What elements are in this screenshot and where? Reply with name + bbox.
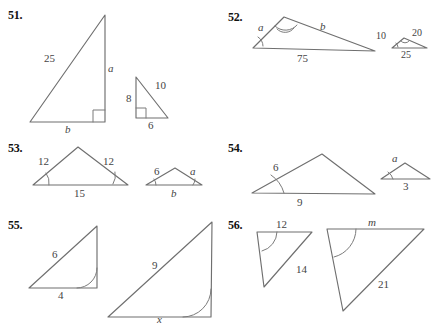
label-54-big-left: 6: [273, 161, 279, 173]
label-54-small-left: a: [392, 152, 398, 164]
label-55-big-base: x: [157, 313, 162, 323]
label-51-big-hypotenuse: 25: [44, 52, 55, 64]
figure-55-large: [108, 222, 212, 317]
problem-number-54: 54.: [228, 141, 242, 156]
figure-52-small: [392, 38, 427, 48]
label-56-big-side: 21: [378, 278, 389, 290]
label-54-small-base: 3: [403, 180, 409, 192]
figure-51-large: [30, 15, 105, 122]
problem-number-53: 53.: [8, 141, 22, 156]
worksheet-page: 51. 25 a b 8 10 6 52. a b 75 10 20 25 53…: [0, 0, 434, 323]
label-51-big-base: b: [65, 123, 71, 135]
figure-52-large: [253, 17, 375, 51]
problem-number-55: 55.: [8, 218, 22, 233]
label-52-small-right: 20: [412, 27, 422, 38]
label-52-big-right: b: [320, 20, 326, 32]
label-56-small-side: 14: [296, 263, 307, 275]
label-51-small-hypotenuse: 10: [155, 79, 166, 91]
problem-number-51: 51.: [8, 8, 22, 23]
figure-55-small: [29, 226, 97, 288]
figure-54-large: [252, 154, 375, 194]
label-52-small-base: 25: [401, 49, 411, 60]
problem-number-52: 52.: [228, 10, 242, 25]
label-53-big-right: 12: [103, 155, 114, 167]
label-55-small-hypotenuse: 6: [52, 248, 58, 260]
figure-56-large: [327, 229, 424, 311]
label-53-small-right: a: [190, 165, 196, 177]
label-53-small-base: b: [171, 187, 177, 199]
label-55-small-base: 4: [58, 289, 64, 301]
label-53-big-base: 15: [74, 187, 85, 199]
problem-number-56: 56.: [228, 218, 242, 233]
label-55-big-hypotenuse: 9: [152, 259, 158, 271]
label-51-small-vertical: 8: [126, 92, 132, 104]
label-53-big-left: 12: [38, 155, 49, 167]
label-53-small-left: 6: [154, 165, 160, 177]
label-54-big-base: 9: [297, 196, 303, 208]
label-51-small-base: 6: [148, 119, 154, 131]
label-52-big-left: a: [258, 21, 264, 33]
figure-56-small: [257, 232, 312, 287]
label-56-big-top: m: [368, 216, 376, 228]
label-51-big-vertical: a: [108, 62, 114, 74]
label-52-small-left: 10: [376, 30, 386, 41]
figure-54-small: [381, 163, 430, 179]
label-52-big-base: 75: [297, 52, 308, 64]
figures-layer: [0, 0, 434, 323]
label-56-small-top: 12: [276, 218, 287, 230]
